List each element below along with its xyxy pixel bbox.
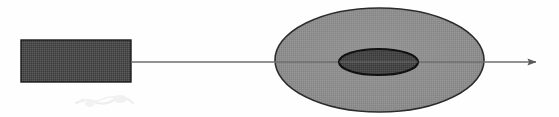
- source-block: [21, 40, 131, 82]
- diagram-svg: [0, 0, 559, 117]
- figure-canvas: [0, 0, 559, 117]
